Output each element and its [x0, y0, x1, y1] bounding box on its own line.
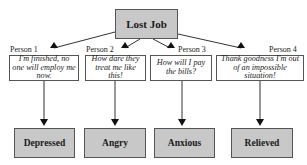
thought-person-4: Thank goodness I'm out of an impossible … [216, 55, 304, 81]
thought-person-2: How dare they treat me like this! [85, 55, 146, 81]
emotion-angry: Angry [84, 128, 146, 158]
arrowhead-icon [256, 119, 264, 126]
arrowhead-icon [167, 42, 175, 48]
arrowhead-icon [111, 119, 119, 126]
arrowhead-icon [50, 42, 58, 48]
person-1-label: Person 1 [10, 45, 38, 54]
thought-person-1: I'm finished, no one will employ me now. [9, 55, 79, 81]
emotion-anxious: Anxious [154, 128, 215, 158]
person-4-label: Person 4 [269, 45, 297, 54]
arrowhead-icon [121, 42, 129, 48]
arrowhead-icon [40, 119, 48, 126]
person-3-label: Person 3 [178, 45, 206, 54]
emotion-depressed: Depressed [14, 128, 75, 158]
root-node-lost-job: Lost Job [115, 9, 178, 39]
arrowhead-icon [178, 119, 186, 126]
emotion-relieved: Relieved [231, 128, 293, 158]
thought-person-3: How will I pay the bills? [150, 55, 212, 81]
arrowhead-icon [237, 42, 245, 48]
person-2-label: Person 2 [86, 45, 114, 54]
